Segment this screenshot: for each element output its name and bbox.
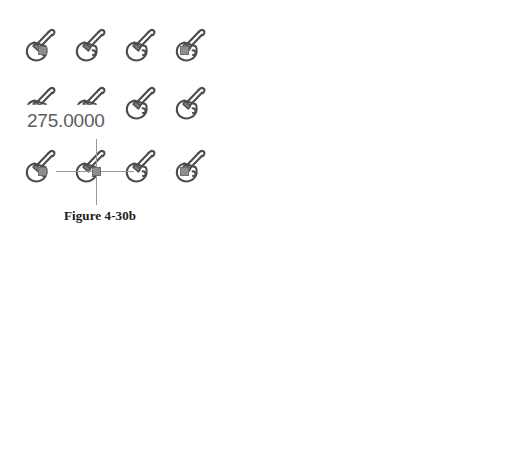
guitar-icon[interactable] bbox=[72, 26, 110, 66]
figure-panel-b: 275.0000 Figure 4-30b bbox=[0, 0, 264, 227]
figure-panel-d: 325.0000 Figure 4-30d bbox=[0, 227, 527, 454]
row-spacing-dimension-value: 275.0000 bbox=[27, 110, 105, 132]
row-grip-top-right[interactable] bbox=[180, 46, 189, 55]
guitar-icon[interactable] bbox=[172, 26, 210, 66]
row-grip-top[interactable] bbox=[38, 46, 47, 55]
guitar-icon[interactable] bbox=[72, 147, 110, 187]
guitar-icon[interactable] bbox=[122, 84, 160, 124]
figure-caption-b: Figure 4-30b bbox=[64, 208, 136, 224]
guitar-icon[interactable] bbox=[122, 26, 160, 66]
column-grip[interactable] bbox=[180, 167, 189, 176]
guitar-icon[interactable] bbox=[172, 84, 210, 124]
figure-panel-c: Rows = 3 Row Count Total Row Spacing Axi… bbox=[264, 0, 527, 227]
guitar-icon[interactable] bbox=[172, 147, 210, 187]
row-spacing-grip[interactable] bbox=[92, 167, 101, 176]
guitar-icon[interactable] bbox=[122, 147, 160, 187]
base-point-grip[interactable] bbox=[38, 167, 47, 176]
